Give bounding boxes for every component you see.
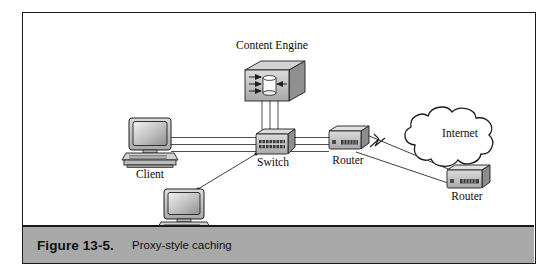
figure-caption-bar: Figure 13-5. Proxy-style caching xyxy=(23,225,534,263)
figure-frame: Content Engine Client Switch Router Inte… xyxy=(22,12,536,264)
lightning-icon xyxy=(370,134,385,147)
label-router-local: Router xyxy=(325,154,371,166)
figure-root: Content Engine Client Switch Router Inte… xyxy=(0,0,560,280)
router-icon-remote xyxy=(447,165,490,188)
network-diagram: Content Engine Client Switch Router Inte… xyxy=(23,13,534,225)
workstation-icon-client xyxy=(122,118,178,167)
router-ports-local xyxy=(341,140,358,145)
cache-cylinder-icon xyxy=(263,76,276,96)
label-client: Client xyxy=(127,168,173,180)
figure-caption-number: Figure 13-5. xyxy=(37,238,114,253)
switch-port-dividers xyxy=(262,140,283,148)
label-content-engine: Content Engine xyxy=(229,39,315,51)
content-engine-icon xyxy=(245,61,305,101)
figure-caption-title: Proxy-style caching xyxy=(132,239,232,251)
label-switch: Switch xyxy=(251,156,295,168)
router-icon-local xyxy=(329,126,369,149)
label-internet: Internet xyxy=(433,127,487,139)
workstation-icon-secondary xyxy=(157,189,211,225)
link-client-to-switch xyxy=(171,138,256,152)
label-router-remote: Router xyxy=(444,190,490,202)
link-workstation2-to-switch xyxy=(198,154,256,189)
switch-icon xyxy=(256,129,295,154)
